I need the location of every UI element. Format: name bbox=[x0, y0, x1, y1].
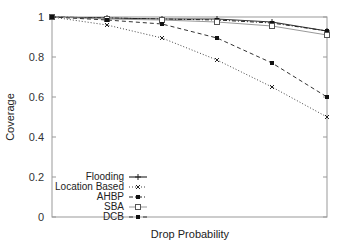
x-axis-label: Drop Probability bbox=[151, 228, 230, 240]
y-tick-label: 0.8 bbox=[29, 51, 44, 63]
series-location-based bbox=[50, 15, 329, 119]
y-tick-label: 0 bbox=[38, 211, 44, 223]
series-layer bbox=[49, 14, 330, 119]
coverage-chart: 00.20.40.60.81 Drop Probability Coverage… bbox=[0, 0, 341, 248]
legend-label: DCB bbox=[103, 211, 124, 222]
series-sba bbox=[50, 15, 330, 38]
legend: Flooding Location Based AHBP SBA DCB bbox=[55, 171, 147, 222]
y-tick-label: 0.2 bbox=[29, 171, 44, 183]
y-axis-label: Coverage bbox=[4, 93, 16, 141]
y-tick-label: 0.4 bbox=[29, 131, 44, 143]
y-tick-label: 1 bbox=[38, 11, 44, 23]
series-dcb bbox=[50, 15, 329, 99]
y-tick-label: 0.6 bbox=[29, 91, 44, 103]
